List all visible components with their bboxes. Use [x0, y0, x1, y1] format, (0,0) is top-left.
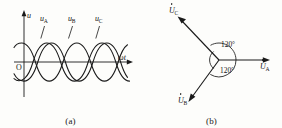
x-axis-arrowhead [127, 60, 133, 65]
y-axis [22, 10, 27, 97]
angle-label-upper: 120° [221, 40, 235, 49]
leader-ub [69, 26, 73, 39]
phasor-label-ua-base: U [260, 62, 266, 71]
phasor-label-uc: UC [169, 6, 179, 15]
angle-label-lower: 120° [220, 66, 234, 75]
phasor-label-ub-sub: B [184, 100, 188, 106]
curve-label-ua: uA [40, 14, 48, 23]
caption-b: (b) [141, 116, 282, 126]
phasor-ub [188, 60, 219, 102]
figure-container: u O ωt uA uB uC (a) [0, 0, 282, 128]
phasor-label-uc-base: U [169, 6, 175, 15]
x-axis-label: ωt [118, 53, 126, 62]
curve-label-ub: uB [68, 14, 76, 23]
phasor-label-ub-base: U [178, 96, 184, 105]
phasor-plot [141, 0, 282, 112]
curve-label-uc: uC [95, 14, 103, 23]
panel-phasor: UC UA UB 120° 120° (b) [141, 0, 282, 128]
phasor-label-uc-sub: C [175, 10, 179, 16]
origin-label: O [16, 63, 22, 72]
leader-uc [96, 26, 100, 39]
curve-label-ub-sub: B [72, 18, 76, 24]
curve-label-uc-sub: C [99, 18, 103, 24]
curve-label-ua-sub: A [44, 18, 48, 24]
y-axis-label: u [27, 11, 31, 20]
phasor-label-ub: UB [178, 96, 188, 105]
leader-ua [41, 26, 45, 39]
phasor-uc [178, 16, 219, 60]
phasor-label-ua-sub: A [266, 66, 270, 72]
panel-waveform: u O ωt uA uB uC (a) [0, 0, 141, 128]
caption-a: (a) [0, 116, 141, 126]
phasor-label-ua: UA [260, 62, 270, 71]
phasor-uc-arrowhead [178, 16, 186, 23]
y-axis-arrowhead [22, 10, 27, 16]
